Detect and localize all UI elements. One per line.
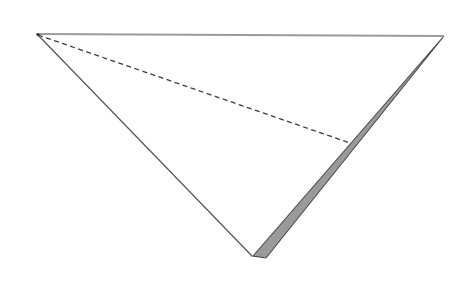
apex-left-junction-dot — [36, 33, 39, 36]
figure-svg — [0, 0, 449, 283]
figure-canvas — [0, 0, 449, 283]
